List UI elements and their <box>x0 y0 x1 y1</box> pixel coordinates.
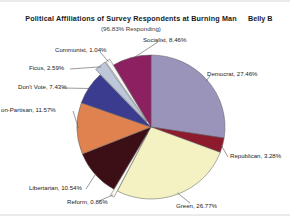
slice-label-non-partisan: on-Partisan, 11.57% <box>1 107 56 113</box>
slice-label-socialist: Socialist, 8.46% <box>143 37 186 43</box>
pie-slice-group <box>77 55 225 199</box>
slice-label-libertarian: Libertarian, 10.54% <box>29 185 82 191</box>
leader-line-republican <box>221 145 228 157</box>
slice-label-ficus: Ficus, 2.59% <box>29 65 64 71</box>
slice-label-communist: Communist, 1.04% <box>55 47 106 53</box>
pie-slice-democrat <box>151 55 225 138</box>
leader-line-communist <box>100 52 109 62</box>
slice-label-republican: Republican, 3.28% <box>230 153 281 159</box>
slice-label-democrat: Democrat, 27.46% <box>207 71 257 77</box>
leader-line-libertarian <box>86 173 96 189</box>
slice-label-reform: Reform, 0.86% <box>67 199 108 205</box>
slice-label-dont-vote: Don't Vote, 7.43% <box>18 84 67 90</box>
slice-label-green: Green, 26.77% <box>176 203 217 209</box>
chart-figure: Political Affiliations of Survey Respond… <box>0 0 290 216</box>
